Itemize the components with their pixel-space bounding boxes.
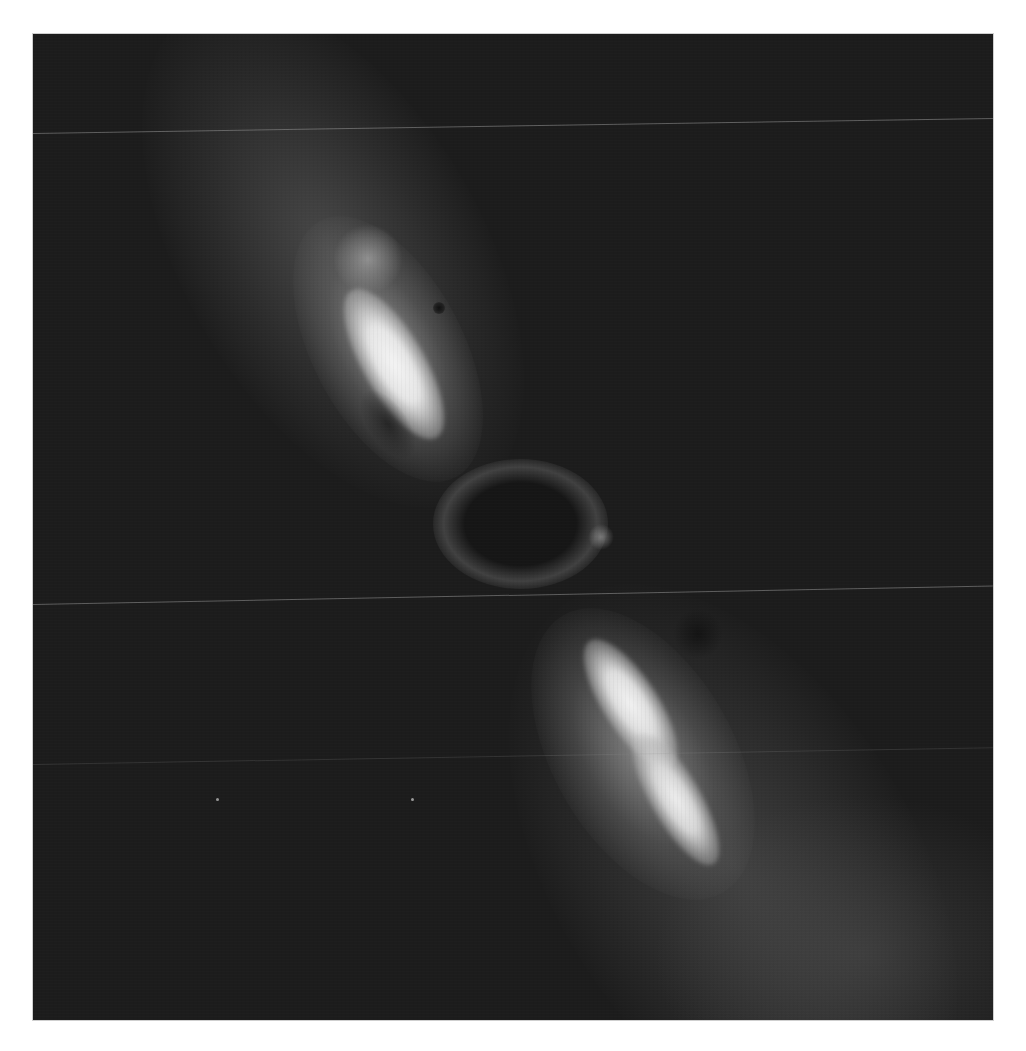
astronomical-image [33, 34, 993, 1020]
sensor-noise [33, 34, 993, 1020]
